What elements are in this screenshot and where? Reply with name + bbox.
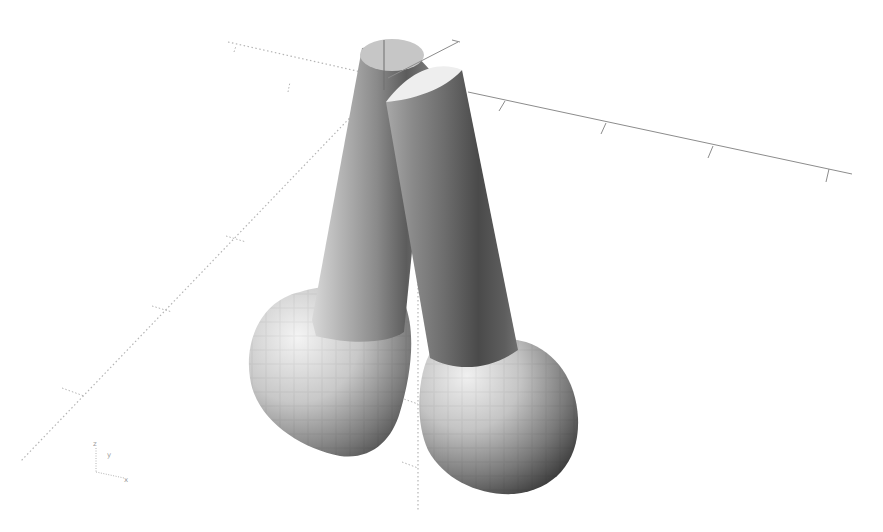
scene-canvas[interactable]: z y x bbox=[0, 0, 883, 532]
axis-indicator: z y x bbox=[93, 440, 128, 484]
axis-label-x: x bbox=[124, 476, 128, 484]
right-cylinder-with-sphere[interactable] bbox=[386, 66, 578, 494]
axis-label-y: y bbox=[107, 451, 111, 459]
3d-viewport[interactable]: z y x bbox=[0, 0, 883, 532]
axis-label-z: z bbox=[93, 440, 97, 448]
